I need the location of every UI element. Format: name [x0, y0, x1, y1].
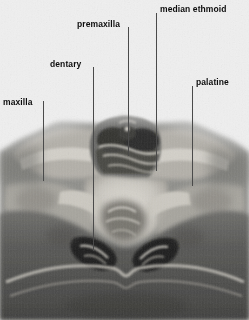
label-premaxilla: premaxilla — [77, 19, 120, 29]
leader-line-premaxilla — [128, 27, 129, 156]
leader-line-dentary — [93, 67, 94, 251]
leader-line-maxilla — [43, 101, 44, 181]
label-palatine: palatine — [196, 77, 229, 87]
label-maxilla: maxilla — [3, 97, 33, 107]
leader-line-median-ethmoid — [156, 13, 157, 171]
leader-line-palatine — [192, 86, 193, 186]
label-dentary: dentary — [50, 59, 81, 69]
figure-panel: maxilla dentary premaxilla median ethmoi… — [0, 0, 249, 320]
label-median-ethmoid: median ethmoid — [160, 4, 227, 14]
specimen-micrograph — [0, 0, 249, 320]
